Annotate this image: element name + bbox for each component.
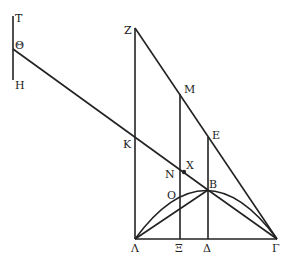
label-E: E [212, 129, 220, 142]
geometric-diagram: T Θ H Z M E K X N O B Λ Ξ Δ Γ [0, 0, 295, 266]
label-N: N [165, 168, 175, 181]
label-Theta: Θ [15, 39, 24, 52]
label-M: M [184, 83, 195, 96]
label-B: B [209, 178, 217, 191]
label-Lambda: Λ [130, 242, 140, 255]
label-Gamma: Γ [272, 242, 280, 255]
parabola-arc [135, 191, 277, 240]
label-X: X [186, 159, 194, 172]
label-Delta: Δ [203, 242, 211, 255]
label-Xi: Ξ [175, 242, 183, 255]
label-K: K [123, 138, 132, 151]
line-theta-B [13, 49, 208, 190]
chord-B-Gamma [208, 190, 277, 239]
label-O: O [167, 189, 176, 202]
label-H: H [15, 79, 25, 92]
line-Z-Gamma [135, 28, 277, 239]
label-T: T [15, 12, 23, 25]
label-Z: Z [124, 24, 132, 37]
